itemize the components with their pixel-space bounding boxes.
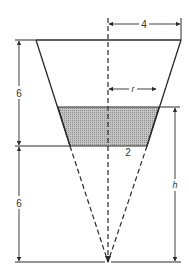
left-wall xyxy=(36,40,70,146)
lower-height-label: 6 xyxy=(16,198,22,209)
bottom-radius-label: 2 xyxy=(125,147,131,158)
water-height-label: h xyxy=(172,180,177,190)
frustum-diagram: 4 6 6 r 2 h xyxy=(0,0,189,280)
top-radius-label: 4 xyxy=(141,19,147,30)
upper-height-label: 6 xyxy=(16,88,22,99)
diagram-canvas: 4 6 6 r 2 h xyxy=(0,0,189,280)
right-wall xyxy=(147,40,181,146)
left-cone-extension xyxy=(70,146,108,262)
cone-vertex xyxy=(105,256,111,263)
right-cone-extension xyxy=(108,146,147,262)
